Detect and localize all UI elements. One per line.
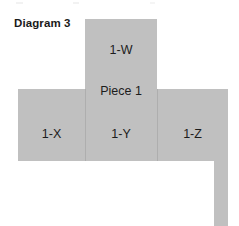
shape-cell-1-w: 1-W [85,19,157,89]
shape-cell-1-y: 1-Y [85,89,157,161]
piece-label: Piece 1 [85,84,157,98]
shape-cell-label-1-x: 1-X [18,127,85,141]
shape-cell-label-1-w: 1-W [85,43,157,57]
diagram-canvas: Diagram 3 1-W 1-X 1-Y 1-Z Piece 1 [0,0,239,226]
shape-cell-1-x: 1-X [18,89,85,161]
shape-cell-tab [214,161,228,226]
scan-artifact [16,2,23,4]
diagram-title: Diagram 3 [14,17,71,29]
cell-divider-y-z [157,89,158,161]
shape-cell-1-z: 1-Z [157,89,228,161]
shape-cell-label-1-z: 1-Z [157,127,228,141]
scan-artifact [150,2,155,4]
cell-divider-x-y [85,89,86,161]
scan-artifact [73,2,79,4]
shape-cell-label-1-y: 1-Y [85,127,157,141]
